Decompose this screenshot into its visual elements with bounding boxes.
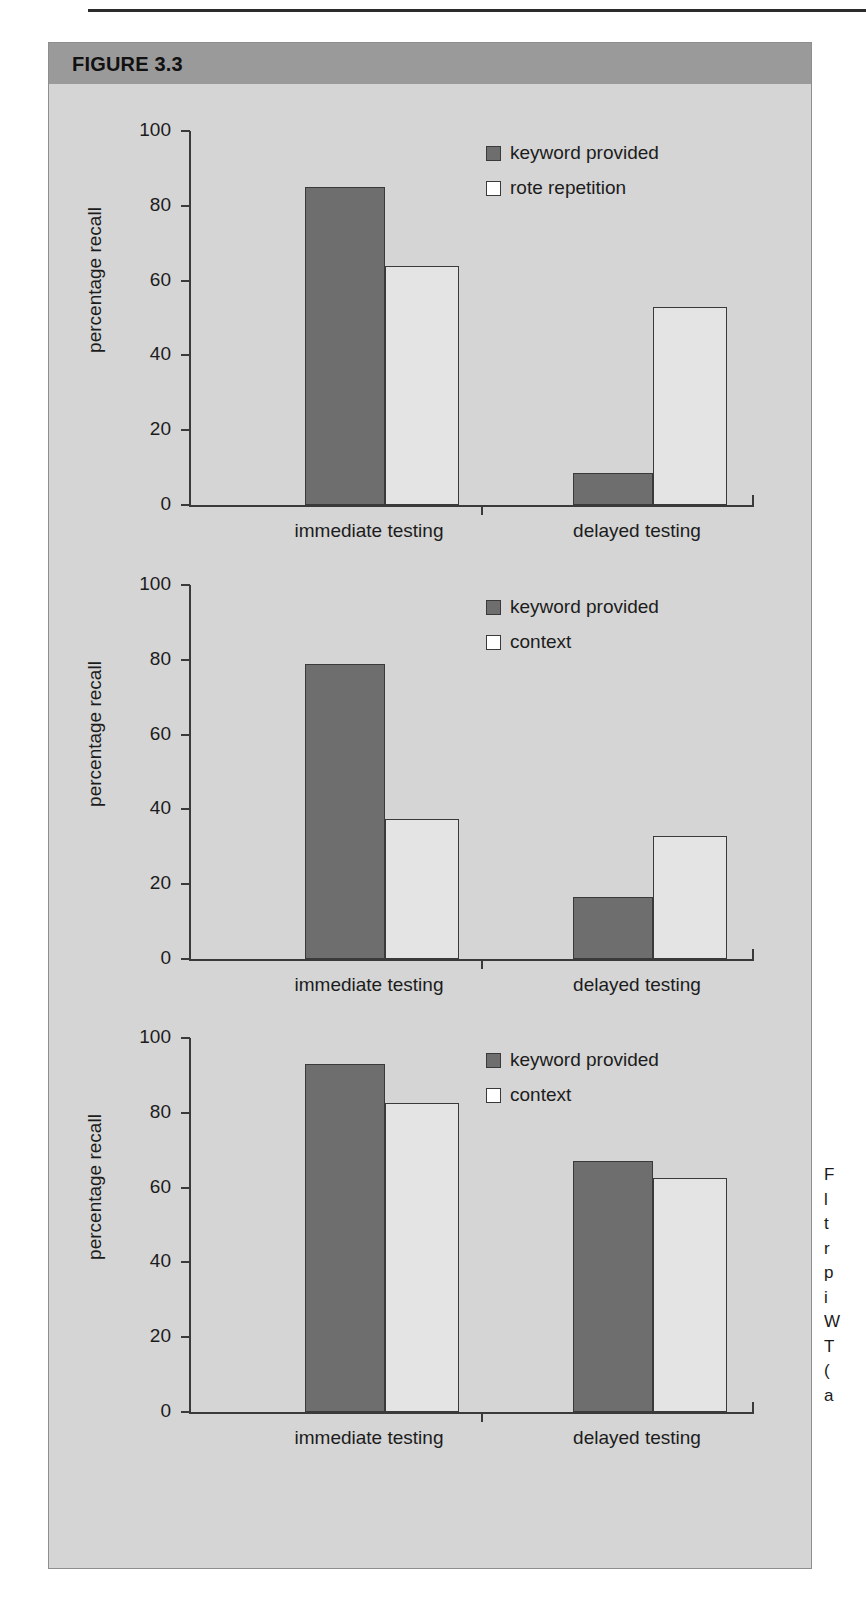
y-axis-tick (181, 429, 190, 431)
y-axis-tick-label: 20 (111, 872, 171, 894)
y-axis-tick (181, 883, 190, 885)
x-axis-end-tick (752, 495, 754, 507)
y-axis-tick-label: 80 (111, 648, 171, 670)
legend-label: keyword provided (510, 596, 659, 618)
y-axis-tick (181, 659, 190, 661)
caption-line: t (824, 1212, 866, 1237)
y-axis-tick (181, 1037, 190, 1039)
legend-swatch-icon (486, 635, 501, 650)
x-axis-category-label: delayed testing (517, 1427, 757, 1449)
legend-item[interactable]: context (486, 630, 659, 654)
legend-swatch-icon (486, 146, 501, 161)
y-axis-tick-label: 100 (111, 119, 171, 141)
y-axis-tick-label: 20 (111, 418, 171, 440)
y-axis-tick-label: 60 (111, 723, 171, 745)
chart-panel-1: 020406080100percentage recallimmediate t… (49, 84, 811, 562)
caption-line: i (824, 1286, 866, 1311)
bar-1-2 (385, 1103, 459, 1412)
x-axis-category-label: immediate testing (249, 1427, 489, 1449)
figure-container: FIGURE 3.3 020406080100percentage recall… (48, 42, 812, 1569)
y-axis-tick (181, 1261, 190, 1263)
y-axis-tick-label: 100 (111, 1026, 171, 1048)
y-axis-tick (181, 504, 190, 506)
legend-label: rote repetition (510, 177, 626, 199)
bar-2-1 (573, 1161, 653, 1412)
bar-2-2 (653, 836, 727, 959)
legend-swatch-icon (486, 1088, 501, 1103)
y-axis-tick-label: 40 (111, 797, 171, 819)
figure-number-label: FIGURE 3.3 (72, 53, 183, 76)
y-axis-line (189, 1038, 191, 1413)
y-axis-tick (181, 584, 190, 586)
chart-legend: keyword providedcontext (486, 1048, 659, 1118)
y-axis-tick (181, 808, 190, 810)
y-axis-tick (181, 205, 190, 207)
chart-panel-2: 020406080100percentage recallimmediate t… (49, 538, 811, 1016)
y-axis-tick (181, 130, 190, 132)
y-axis-tick-label: 0 (111, 493, 171, 515)
bar-chart-1: 020406080100percentage recallimmediate t… (49, 84, 811, 562)
caption-line: a (824, 1384, 866, 1409)
y-axis-line (189, 585, 191, 960)
y-axis-tick-label: 80 (111, 1101, 171, 1123)
y-axis-tick-label: 40 (111, 343, 171, 365)
bar-2-2 (653, 307, 727, 505)
y-axis-tick (181, 1336, 190, 1338)
y-axis-tick-label: 60 (111, 1176, 171, 1198)
bar-2-1 (573, 473, 653, 505)
legend-item[interactable]: keyword provided (486, 1048, 659, 1072)
x-axis-line (189, 505, 754, 507)
legend-swatch-icon (486, 1053, 501, 1068)
caption-line: p (824, 1261, 866, 1286)
bar-2-1 (573, 897, 653, 959)
bar-chart-3: 020406080100percentage recallimmediate t… (49, 991, 811, 1469)
y-axis-title: percentage recall (84, 624, 106, 844)
bar-2-2 (653, 1178, 727, 1412)
y-axis-title: percentage recall (84, 1077, 106, 1297)
caption-line: W (824, 1310, 866, 1335)
x-axis-end-tick (752, 949, 754, 961)
figure-header-bar: FIGURE 3.3 (49, 43, 811, 84)
legend-item[interactable]: context (486, 1083, 659, 1107)
legend-swatch-icon (486, 600, 501, 615)
y-axis-tick (181, 1187, 190, 1189)
legend-item[interactable]: keyword provided (486, 141, 659, 165)
bar-chart-2: 020406080100percentage recallimmediate t… (49, 538, 811, 1016)
legend-label: keyword provided (510, 142, 659, 164)
y-axis-tick (181, 354, 190, 356)
caption-line: F (824, 1163, 866, 1188)
y-axis-tick-label: 80 (111, 194, 171, 216)
page-top-rule (88, 9, 866, 12)
legend-label: keyword provided (510, 1049, 659, 1071)
y-axis-tick-label: 0 (111, 947, 171, 969)
figure-caption: FltrpiWT(a (824, 1163, 866, 1408)
y-axis-tick (181, 734, 190, 736)
legend-item[interactable]: keyword provided (486, 595, 659, 619)
y-axis-tick-label: 100 (111, 573, 171, 595)
legend-label: context (510, 631, 571, 653)
caption-line: r (824, 1237, 866, 1262)
chart-legend: keyword providedcontext (486, 595, 659, 665)
y-axis-tick (181, 1411, 190, 1413)
y-axis-line (189, 131, 191, 506)
y-axis-tick-label: 40 (111, 1250, 171, 1272)
bar-1-1 (305, 1064, 385, 1412)
bar-1-1 (305, 187, 385, 505)
y-axis-tick-label: 60 (111, 269, 171, 291)
y-axis-title: percentage recall (84, 170, 106, 390)
bar-1-2 (385, 819, 459, 959)
chart-panel-3: 020406080100percentage recallimmediate t… (49, 991, 811, 1469)
bar-1-2 (385, 266, 459, 505)
x-axis-category-tick (481, 1412, 483, 1422)
y-axis-tick (181, 280, 190, 282)
x-axis-category-tick (481, 959, 483, 969)
x-axis-line (189, 959, 754, 961)
caption-line: T (824, 1335, 866, 1360)
y-axis-tick (181, 1112, 190, 1114)
x-axis-category-tick (481, 505, 483, 515)
x-axis-end-tick (752, 1402, 754, 1414)
legend-label: context (510, 1084, 571, 1106)
legend-item[interactable]: rote repetition (486, 176, 659, 200)
bar-1-1 (305, 664, 385, 959)
y-axis-tick-label: 20 (111, 1325, 171, 1347)
